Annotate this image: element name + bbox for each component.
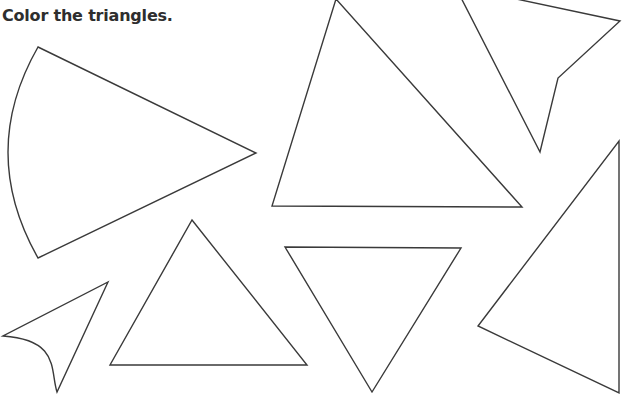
- arrowhead-shape[interactable]: [455, 0, 620, 152]
- curved-dart-shape[interactable]: [3, 282, 108, 392]
- sector-shape[interactable]: [8, 47, 256, 258]
- inverted-triangle-shape[interactable]: [285, 247, 461, 392]
- upright-triangle-shape[interactable]: [110, 220, 307, 365]
- shapes-canvas: [0, 0, 622, 402]
- right-triangle-shape[interactable]: [478, 141, 619, 393]
